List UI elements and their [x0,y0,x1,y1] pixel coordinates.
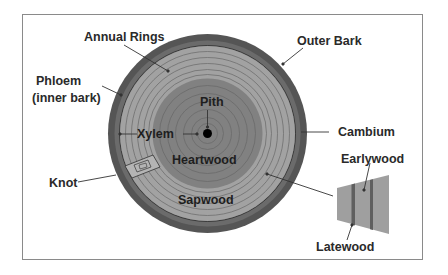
label-phloem: Phloem [36,74,81,88]
label-sapwood: Sapwood [178,193,234,207]
outer-bark-leader [283,48,303,64]
wood-wedge-detail [337,175,389,234]
label-annual-rings: Annual Rings [84,30,165,44]
pith-dot [203,129,212,138]
latewood-leader [347,225,352,240]
label-knot: Knot [49,176,77,190]
label-pith: Pith [200,95,224,109]
label-outer-bark: Outer Bark [297,34,362,48]
label-phloem-inner-bark: (inner bark) [32,91,101,105]
label-xylem: Xylem [137,127,174,141]
label-heartwood: Heartwood [172,153,237,167]
label-latewood: Latewood [316,240,374,254]
knot-leader [78,175,116,182]
label-earlywood: Earlywood [341,152,404,166]
label-cambium: Cambium [338,125,395,139]
